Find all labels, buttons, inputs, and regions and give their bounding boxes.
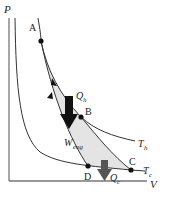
point-c [128, 167, 133, 172]
point-d-label: D [84, 171, 91, 182]
svg-text:c: c [117, 178, 121, 186]
svg-text:h: h [83, 96, 87, 104]
svg-text:eng: eng [73, 143, 84, 151]
heat-in-label: Q h [76, 90, 87, 104]
carnot-pv-diagram: P V A B C D T h T c Q h Q c W eng [0, 0, 184, 204]
isotherm-hot-label: T h [138, 138, 148, 152]
point-b-label: B [85, 106, 92, 117]
v-axis-label: V [150, 178, 158, 190]
point-a-label: A [29, 22, 37, 33]
direction-arrow-da-icon [47, 92, 53, 99]
point-a [38, 38, 43, 43]
isotherm-cold-label: T c [143, 165, 153, 179]
point-d [85, 163, 90, 168]
p-axis-label: P [3, 3, 11, 15]
point-b [78, 114, 83, 119]
heat-out-label: Q c [110, 172, 121, 186]
svg-text:h: h [144, 144, 148, 152]
point-c-label: C [129, 156, 136, 167]
